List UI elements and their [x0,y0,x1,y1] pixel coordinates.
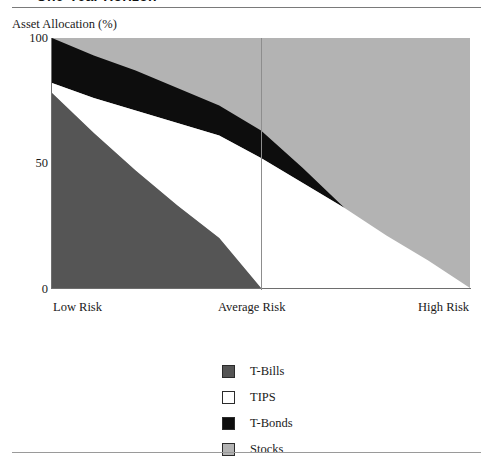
legend-label-tips: TIPS [250,391,276,404]
legend: T-Bills TIPS T-Bonds Stocks [222,358,402,462]
legend-item-tips: TIPS [222,384,402,410]
y-axis-line [51,38,52,289]
legend-label-t-bonds: T-Bonds [250,417,293,430]
legend-swatch-t-bills [222,365,235,378]
x-label-low-risk: Low Risk [53,300,102,315]
legend-swatch-stocks [222,443,235,456]
legend-swatch-t-bonds [222,417,235,430]
x-label-high-risk: High Risk [418,300,469,315]
y-tick-100: 100 [8,32,48,45]
legend-item-stocks: Stocks [222,436,402,462]
figure-container: One-Year Horizon Asset Allocation (%) 10… [0,0,493,470]
average-risk-divider [261,38,262,290]
chart-title: One-Year Horizon [36,0,157,4]
bottom-divider-rule [12,452,481,453]
y-axis-title: Asset Allocation (%) [12,17,117,32]
y-axis-ticks: 100 50 0 [4,0,48,470]
x-label-average-risk: Average Risk [218,300,285,315]
legend-label-stocks: Stocks [250,443,283,456]
legend-item-t-bills: T-Bills [222,358,402,384]
legend-swatch-tips [222,391,235,404]
y-tick-0: 0 [8,283,48,296]
legend-item-t-bonds: T-Bonds [222,410,402,436]
legend-label-t-bills: T-Bills [250,365,284,378]
y-tick-50: 50 [8,157,48,170]
top-divider-rule [12,7,481,8]
